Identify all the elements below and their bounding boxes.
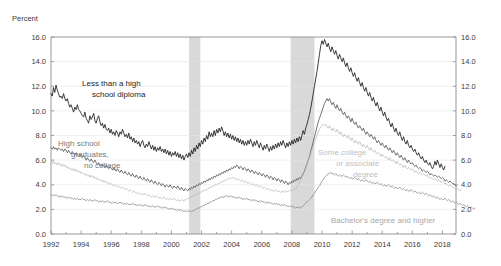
x-tick-label: 2008 xyxy=(284,240,301,249)
annotation-some-college: Some college xyxy=(318,148,367,157)
x-tick-label: 1996 xyxy=(103,240,120,249)
y-tick-label-left: 4.0 xyxy=(36,180,46,189)
y-tick-label-right: 2.0 xyxy=(461,205,471,214)
annotation-less-than-high-school: Less than a high xyxy=(82,79,141,88)
y-axis-unit-label: Percent xyxy=(12,14,39,23)
annotation-some-college: or associate xyxy=(336,159,380,168)
annotation-high-school-graduates: no college xyxy=(84,161,121,170)
x-tick-label: 1994 xyxy=(73,240,90,249)
y-tick-label-left: 12.0 xyxy=(31,82,46,91)
y-tick-label-right: 16.0 xyxy=(461,33,476,42)
y-tick-label-right: 14.0 xyxy=(461,57,476,66)
unemployment-by-education-chart: Percent 16.014.012.010.08.06.04.02.00.0 … xyxy=(0,0,501,266)
annotation-less-than-high-school: school diploma xyxy=(92,90,146,99)
chart-container: Percent 16.014.012.010.08.06.04.02.00.0 … xyxy=(0,0,501,266)
y-tick-label-left: 6.0 xyxy=(36,156,46,165)
y-tick-label-right: 12.0 xyxy=(461,82,476,91)
annotation-high-school-graduates: High school xyxy=(58,139,100,148)
y-tick-label-right: 0.0 xyxy=(461,230,471,239)
x-tick-label: 1992 xyxy=(43,240,60,249)
y-tick-label-right: 10.0 xyxy=(461,107,476,116)
y-tick-label-right: 6.0 xyxy=(461,156,471,165)
y-tick-label-left: 14.0 xyxy=(31,57,46,66)
y-tick-label-left: 0.0 xyxy=(36,230,46,239)
x-tick-label: 2018 xyxy=(434,240,451,249)
chart-background xyxy=(0,0,501,266)
annotation-some-college: degree xyxy=(353,170,378,179)
y-tick-label-right: 8.0 xyxy=(461,131,471,140)
x-tick-label: 2016 xyxy=(404,240,421,249)
x-tick-label: 2012 xyxy=(344,240,361,249)
x-tick-label: 2004 xyxy=(223,240,240,249)
x-tick-label: 2006 xyxy=(253,240,270,249)
x-tick-label: 1998 xyxy=(133,240,150,249)
x-tick-label: 2014 xyxy=(374,240,391,249)
x-tick-label: 2010 xyxy=(314,240,331,249)
y-tick-label-left: 16.0 xyxy=(31,33,46,42)
y-tick-label-right: 4.0 xyxy=(461,180,471,189)
annotation-bachelors-degree: Bachelor's degree and higher xyxy=(331,216,436,225)
y-tick-label-left: 2.0 xyxy=(36,205,46,214)
y-tick-label-left: 8.0 xyxy=(36,131,46,140)
annotation-high-school-graduates: graduates, xyxy=(71,150,109,159)
x-tick-label: 2000 xyxy=(163,240,180,249)
y-tick-label-left: 10.0 xyxy=(31,107,46,116)
x-tick-label: 2002 xyxy=(193,240,210,249)
